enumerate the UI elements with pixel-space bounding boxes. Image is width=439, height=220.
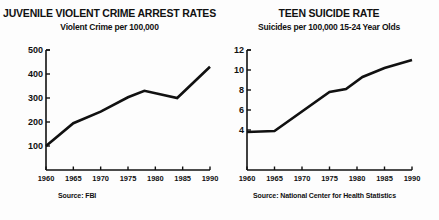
y-axis-tick-label: 300: [28, 93, 43, 103]
x-axis-tick-label: 1960: [38, 174, 55, 183]
x-axis-tick-label: 1980: [349, 174, 366, 183]
x-axis-tick-label: 1965: [65, 174, 82, 183]
x-axis-tick-label: 1960: [239, 174, 256, 183]
y-axis-tick-label: 6: [239, 105, 244, 115]
plot-area-juvenile-violent-crime: 1002003004005001960196519701975198019851…: [0, 0, 219, 220]
chart-page: JUVENILE VIOLENT CRIME ARREST RATES Viol…: [0, 0, 439, 220]
x-axis-tick-label: 1970: [294, 174, 311, 183]
y-axis-tick-label: 4: [239, 125, 244, 135]
x-axis-tick-label: 1980: [147, 174, 164, 183]
x-axis-tick-label: 1990: [202, 174, 219, 183]
x-axis-tick-label: 1970: [92, 174, 109, 183]
chart-panel-teen-suicide-rate: TEEN SUICIDE RATE Suicides per 100,000 1…: [219, 0, 439, 220]
source-note-teen-suicide-rate: Source: National Center for Health Stati…: [253, 192, 396, 199]
data-line: [247, 60, 412, 132]
data-line: [46, 67, 210, 146]
x-axis-tick-label: 1985: [376, 174, 393, 183]
x-axis-tick-label: 1985: [174, 174, 191, 183]
y-axis-tick-label: 12: [234, 45, 244, 55]
line-chart-teen-suicide-rate: 46810121960196519701975198019851990: [219, 0, 439, 220]
chart-panel-juvenile-violent-crime: JUVENILE VIOLENT CRIME ARREST RATES Viol…: [0, 0, 219, 220]
y-axis-tick-label: 10: [234, 65, 244, 75]
plot-area-teen-suicide-rate: 46810121960196519701975198019851990: [219, 0, 439, 220]
y-axis-tick-label: 200: [28, 117, 43, 127]
y-axis-tick-label: 8: [239, 85, 244, 95]
y-axis-tick-label: 100: [28, 141, 43, 151]
x-axis-tick-label: 1975: [120, 174, 137, 183]
x-axis-tick-label: 1965: [266, 174, 283, 183]
y-axis-tick-label: 500: [28, 45, 43, 55]
x-axis-tick-label: 1975: [321, 174, 338, 183]
line-chart-juvenile-violent-crime: 1002003004005001960196519701975198019851…: [0, 0, 219, 220]
y-axis-tick-label: 400: [28, 69, 43, 79]
source-note-juvenile-violent-crime: Source: FBI: [58, 192, 96, 199]
x-axis-tick-label: 1990: [404, 174, 421, 183]
